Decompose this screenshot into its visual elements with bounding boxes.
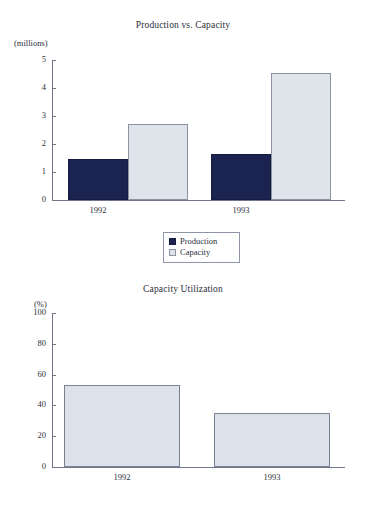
y-tick-label-80: 80 [14, 338, 46, 348]
y-tick-label-4: 4 [20, 82, 46, 92]
y-tick-3 [52, 116, 56, 117]
chart-legend-production-vs-capacity: Production Capacity [163, 232, 240, 263]
chart-capacity-utilization: Capacity Utilization (%) 100 80 60 40 20… [0, 270, 366, 509]
x-category-label-1993: 1993 [242, 472, 302, 482]
chart-title-production-vs-capacity: Production vs. Capacity [0, 20, 366, 30]
y-tick-40 [52, 405, 56, 406]
y-tick-80 [52, 344, 56, 345]
bar-capacity-1992 [128, 124, 188, 200]
legend-swatch-capacity-icon [169, 249, 176, 256]
y-tick-label-100: 100 [14, 307, 46, 317]
y-tick-label-0: 0 [20, 194, 46, 204]
y-tick-20 [52, 436, 56, 437]
legend-item-capacity: Capacity [169, 247, 232, 258]
y-tick-100 [52, 313, 56, 314]
chart-production-vs-capacity: Production vs. Capacity (millions) 5 4 3… [0, 0, 366, 270]
y-axis-line [52, 313, 53, 468]
y-tick-label-60: 60 [14, 369, 46, 379]
y-tick-label-5: 5 [20, 54, 46, 64]
x-category-label-1992: 1992 [68, 205, 128, 215]
bar-utilization-1993 [214, 413, 330, 467]
y-tick-label-3: 3 [20, 110, 46, 120]
y-tick-label-0: 0 [14, 461, 46, 471]
y-tick-5 [52, 60, 56, 61]
legend-label-capacity: Capacity [180, 247, 210, 258]
y-tick-label-40: 40 [14, 399, 46, 409]
bar-production-1992 [68, 159, 128, 200]
y-tick-1 [52, 172, 56, 173]
y-tick-60 [52, 375, 56, 376]
y-tick-label-1: 1 [20, 166, 46, 176]
bar-capacity-1993 [271, 73, 331, 200]
y-tick-2 [52, 144, 56, 145]
bar-utilization-1992 [64, 385, 180, 467]
y-tick-label-20: 20 [14, 430, 46, 440]
y-axis-line [52, 60, 53, 201]
y-axis-unit-label-millions: (millions) [14, 38, 48, 48]
legend-item-production: Production [169, 236, 232, 247]
legend-swatch-production-icon [169, 238, 176, 245]
x-axis-line [52, 200, 345, 201]
x-axis-line [52, 467, 345, 468]
y-tick-label-2: 2 [20, 138, 46, 148]
x-category-label-1992: 1992 [92, 472, 152, 482]
chart-title-capacity-utilization: Capacity Utilization [0, 284, 366, 294]
legend-label-production: Production [180, 236, 217, 247]
bar-production-1993 [211, 154, 271, 200]
x-category-label-1993: 1993 [211, 205, 271, 215]
y-tick-4 [52, 88, 56, 89]
